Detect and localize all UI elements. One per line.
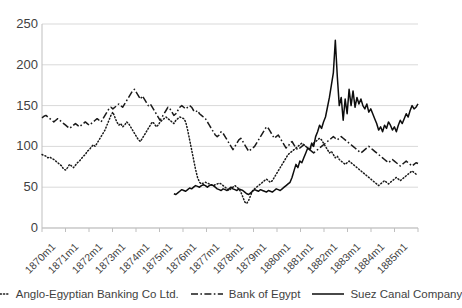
y-tick-label: 200 <box>4 58 38 71</box>
legend-item[interactable]: Bank of Egypt <box>190 288 301 300</box>
legend-label: Anglo-Egyptian Banking Co Ltd. <box>16 288 179 300</box>
y-tick-label: 250 <box>4 17 38 30</box>
legend-label: Suez Canal Company <box>350 288 462 300</box>
y-axis-labels: 050100150200250 <box>0 0 38 240</box>
x-axis-labels: 1870m11871m11872m11873m11874m11875m11876… <box>0 228 439 280</box>
legend-swatch-dotted-icon <box>0 289 11 299</box>
series-line-2 <box>174 40 418 194</box>
legend-label: Bank of Egypt <box>229 288 301 300</box>
plot-area <box>0 0 439 240</box>
gridlines <box>42 24 418 228</box>
y-tick-label: 100 <box>4 139 38 152</box>
chart-legend: Anglo-Egyptian Banking Co Ltd.Bank of Eg… <box>0 280 439 308</box>
legend-item[interactable]: Suez Canal Company <box>311 288 462 300</box>
y-tick-label: 150 <box>4 99 38 112</box>
legend-swatch-dashdot-icon <box>190 289 224 299</box>
legend-swatch-solid-icon <box>311 289 345 299</box>
y-tick-label: 50 <box>4 180 38 193</box>
legend-item[interactable]: Anglo-Egyptian Banking Co Ltd. <box>0 288 179 300</box>
series-line-0 <box>42 112 418 203</box>
chart-plot-svg <box>0 0 439 240</box>
